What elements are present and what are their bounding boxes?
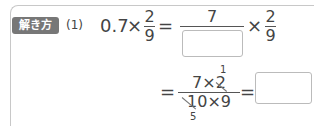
decimal-value: 0.7	[100, 16, 129, 36]
fraction-2-9-b: 2 9	[265, 9, 276, 44]
numerator: 2	[265, 9, 276, 25]
times-sign-2: ×	[247, 16, 262, 36]
equals-sign: =	[158, 16, 173, 36]
fraction-bar	[180, 26, 244, 27]
fraction-7x2-10x9: 7×2 10×9	[178, 75, 240, 110]
denominator: 9	[144, 28, 155, 44]
numerator: 7×2	[178, 75, 240, 91]
fraction-7-blank: 7	[180, 9, 244, 28]
numerator: 7	[180, 9, 244, 25]
times-sign: ×	[127, 16, 142, 36]
denominator-answer-box[interactable]	[182, 30, 243, 57]
answer-box[interactable]	[255, 72, 312, 104]
denominator: 9	[265, 28, 276, 44]
cancel-result-below: 5	[190, 111, 196, 122]
equals-sign-2: =	[160, 82, 175, 102]
question-number: (1)	[66, 17, 83, 34]
fraction-2-9: 2 9	[144, 9, 155, 44]
equals-sign-3: =	[240, 82, 255, 102]
solution-badge: 解き方	[12, 17, 59, 34]
numerator: 2	[144, 9, 155, 25]
